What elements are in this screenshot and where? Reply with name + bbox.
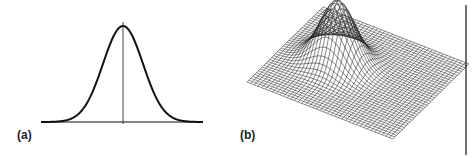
panel-a-label: (a) bbox=[17, 128, 32, 142]
panel-b-label: (b) bbox=[240, 128, 255, 142]
mesh-line-v bbox=[251, 8, 327, 83]
panel-a-gaussian-1d bbox=[41, 22, 203, 124]
figure bbox=[0, 0, 473, 158]
mesh-line-v bbox=[287, 9, 363, 98]
mesh-line-v bbox=[254, 10, 330, 85]
mesh-line-u bbox=[287, 0, 433, 99]
gaussian-curve bbox=[41, 26, 203, 122]
panel-b-gaussian-surface bbox=[247, 0, 469, 139]
mesh-line-v bbox=[247, 7, 323, 82]
mesh-line-u bbox=[298, 28, 444, 89]
